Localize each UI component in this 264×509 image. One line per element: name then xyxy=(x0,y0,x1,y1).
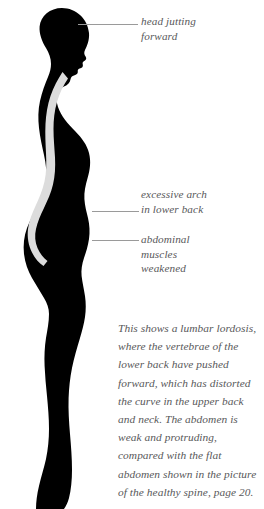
lordosis-illustration-page: head jutting forward excessive arch in l… xyxy=(0,0,264,509)
leader-line-abdomen xyxy=(92,240,139,241)
leader-line-head xyxy=(78,24,138,25)
callout-label-head-jutting-forward: head jutting forward xyxy=(141,14,259,43)
callout-label-excessive-arch: excessive arch in lower back xyxy=(141,187,259,216)
callout-label-abdominal-muscles-weakened: abdominal muscles weakened xyxy=(141,232,259,276)
leader-line-arch xyxy=(92,211,139,212)
caption-paragraph: This shows a lumbar lordosis, where the … xyxy=(118,319,260,501)
posture-figure-illustration xyxy=(0,0,132,509)
